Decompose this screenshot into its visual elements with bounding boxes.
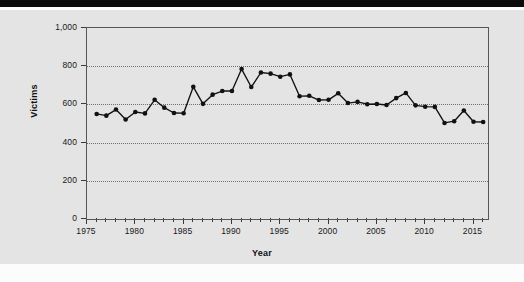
data-point-marker <box>423 104 428 109</box>
x-axis-tick-label: 1990 <box>211 226 251 236</box>
series-line <box>97 69 484 123</box>
scan-artifact-top-band <box>0 0 524 7</box>
data-point-marker <box>172 111 177 116</box>
y-axis-tick-label: 0 <box>7 213 77 223</box>
data-point-marker <box>143 111 148 116</box>
x-axis-tick-label: 1985 <box>163 226 203 236</box>
x-axis-tick-label: 1975 <box>66 226 106 236</box>
data-point-marker <box>210 92 215 97</box>
data-point-marker <box>259 70 264 75</box>
line-chart: Victims Year 02004006008001,000 19751980… <box>0 10 524 264</box>
data-point-marker <box>297 94 302 99</box>
data-point-marker <box>404 91 409 96</box>
page-bottom-margin <box>0 264 524 282</box>
data-point-marker <box>346 101 351 106</box>
data-point-marker <box>365 102 370 107</box>
data-point-marker <box>452 119 457 124</box>
x-axis-tick-label: 1980 <box>114 226 154 236</box>
data-point-marker <box>462 108 467 113</box>
y-axis-tick-label: 1,000 <box>7 22 77 32</box>
x-axis-tick-label: 2000 <box>308 226 348 236</box>
x-axis-tick-label: 1995 <box>259 226 299 236</box>
data-point-marker <box>114 107 119 112</box>
data-point-marker <box>336 91 341 96</box>
data-point-marker <box>152 98 157 103</box>
x-axis-tick-label: 2010 <box>404 226 444 236</box>
data-point-marker <box>326 98 331 103</box>
data-point-marker <box>201 102 206 107</box>
y-axis-tick-label: 800 <box>7 60 77 70</box>
y-axis-tick-label: 600 <box>7 98 77 108</box>
data-point-marker <box>249 85 254 90</box>
data-point-marker <box>375 102 380 107</box>
data-point-marker <box>230 89 235 94</box>
x-axis-title: Year <box>0 248 524 258</box>
data-point-marker <box>104 113 109 118</box>
data-point-marker <box>268 71 273 76</box>
data-point-marker <box>220 89 225 94</box>
y-axis-tick-label: 200 <box>7 175 77 185</box>
plot-area <box>86 27 489 220</box>
data-point-marker <box>239 67 244 72</box>
data-point-marker <box>355 100 360 105</box>
data-point-marker <box>471 119 476 124</box>
data-point-marker <box>384 103 389 108</box>
data-point-marker <box>94 112 99 117</box>
data-point-marker <box>317 98 322 103</box>
data-point-marker <box>162 105 167 110</box>
data-point-marker <box>278 74 283 79</box>
data-point-marker <box>133 110 138 115</box>
x-axis-tick-label: 2005 <box>356 226 396 236</box>
data-point-marker <box>413 103 418 108</box>
data-point-marker <box>288 72 293 77</box>
data-point-marker <box>181 111 186 116</box>
data-point-marker <box>481 120 486 125</box>
data-point-marker <box>307 94 312 99</box>
y-axis-tick-label: 400 <box>7 137 77 147</box>
series-victims <box>87 28 488 219</box>
data-point-marker <box>433 105 438 110</box>
data-point-marker <box>394 96 399 101</box>
x-axis-tick-label: 2015 <box>453 226 493 236</box>
data-point-marker <box>123 117 128 122</box>
data-point-marker <box>442 121 447 126</box>
data-point-marker <box>191 85 196 90</box>
chart-screenshot: Victims Year 02004006008001,000 19751980… <box>0 0 524 282</box>
